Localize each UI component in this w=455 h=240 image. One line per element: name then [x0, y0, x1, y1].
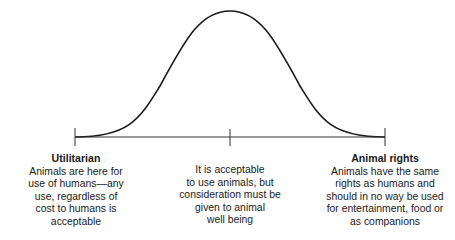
bell-curve: [75, 11, 385, 137]
position-middle: It is acceptable to use animals, but con…: [170, 164, 290, 227]
position-title: Animal rights: [322, 152, 448, 165]
position-animal-rights: Animal rights Animals have the same righ…: [322, 152, 448, 229]
position-description: It is acceptable to use animals, but con…: [170, 164, 290, 227]
position-title: Utilitarian: [15, 152, 137, 165]
position-description: Animals are here for use of humans—any u…: [15, 166, 137, 229]
position-description: Animals have the same rights as humans a…: [322, 166, 448, 229]
position-utilitarian: Utilitarian Animals are here for use of …: [15, 152, 137, 229]
